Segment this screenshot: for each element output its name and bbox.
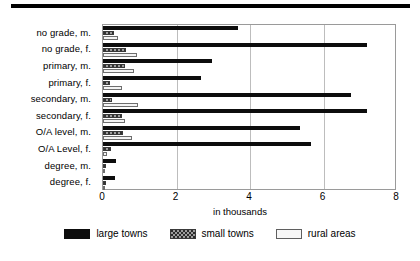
x-axis-tick: 4 <box>246 191 252 202</box>
legend-label: large towns <box>96 228 147 239</box>
bar-group <box>103 158 395 175</box>
legend-item-large: large towns <box>64 228 147 239</box>
y-axis-label: primary, f. <box>0 74 96 91</box>
legend-swatch-small-icon <box>170 229 196 239</box>
bar-small-towns <box>103 147 111 151</box>
top-divider-rule <box>11 4 410 8</box>
legend-swatch-large-icon <box>64 229 90 239</box>
bar-rural-towns <box>103 53 137 57</box>
legend-label: small towns <box>202 228 254 239</box>
legend-item-small: small towns <box>170 228 254 239</box>
bar-group <box>103 141 395 158</box>
bar-small-towns <box>103 48 126 52</box>
bar-group <box>103 58 395 75</box>
y-axis-label: no grade, m. <box>0 24 96 41</box>
x-axis-title-text: in thousands <box>213 206 267 217</box>
bar-large-towns <box>103 109 367 113</box>
y-axis-label: secondary, f. <box>0 107 96 124</box>
y-axis-label: O/A Level, f. <box>0 140 96 157</box>
x-axis-tick: 2 <box>173 191 179 202</box>
y-axis-label: secondary, m. <box>0 90 96 107</box>
chart-legend: large townssmall townsrural areas <box>0 228 420 239</box>
bar-group <box>103 75 395 92</box>
bar-rural-towns <box>103 36 118 40</box>
bar-group <box>103 42 395 59</box>
legend-label: rural areas <box>308 228 356 239</box>
bar-rural-towns <box>103 136 132 140</box>
x-axis-tick: 8 <box>393 191 399 202</box>
y-axis-label: degree, f. <box>0 173 96 190</box>
bar-large-towns <box>103 93 351 97</box>
y-axis-label: no grade, f. <box>0 41 96 58</box>
bar-large-towns <box>103 43 367 47</box>
bar-rural-towns <box>103 103 138 107</box>
bar-large-towns <box>103 26 238 30</box>
bar-group <box>103 25 395 42</box>
y-axis-label: degree, m. <box>0 157 96 174</box>
plot-area <box>102 24 396 190</box>
bar-rural-towns <box>103 169 105 173</box>
x-axis-tick: 0 <box>99 191 105 202</box>
bar-group <box>103 108 395 125</box>
y-axis-label: primary, m. <box>0 57 96 74</box>
bar-small-towns <box>103 98 112 102</box>
bar-rural-towns <box>103 119 125 123</box>
bar-group <box>103 91 395 108</box>
bar-small-towns <box>103 164 106 168</box>
bar-small-towns <box>103 181 106 185</box>
y-axis-label: O/A level, m. <box>0 124 96 141</box>
bar-large-towns <box>103 126 300 130</box>
bar-chart: no grade, m.no grade, f.primary, m.prima… <box>0 12 420 197</box>
bar-large-towns <box>103 159 116 163</box>
bar-rural-towns <box>103 69 134 73</box>
bar-large-towns <box>103 76 201 80</box>
bar-small-towns <box>103 64 125 68</box>
bar-rural-towns <box>103 152 107 156</box>
bar-large-towns <box>103 59 212 63</box>
bar-small-towns <box>103 114 122 118</box>
bar-large-towns <box>103 176 115 180</box>
bar-small-towns <box>103 131 123 135</box>
bar-large-towns <box>103 142 311 146</box>
legend-swatch-rural-icon <box>276 229 302 239</box>
x-axis-tick: 6 <box>320 191 326 202</box>
bar-rural-towns <box>103 186 105 190</box>
bar-group <box>103 125 395 142</box>
x-axis-tick-labels: 02468 <box>102 191 396 205</box>
x-axis-title: in thousands <box>0 206 420 217</box>
bar-small-towns <box>103 81 110 85</box>
bar-small-towns <box>103 31 114 35</box>
bar-rural-towns <box>103 86 122 90</box>
legend-item-rural: rural areas <box>276 228 356 239</box>
y-axis-category-labels: no grade, m.no grade, f.primary, m.prima… <box>0 24 96 190</box>
bar-group <box>103 174 395 191</box>
